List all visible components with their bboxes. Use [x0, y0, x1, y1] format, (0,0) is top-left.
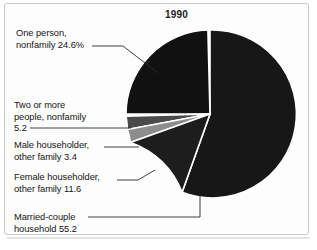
callout-two-or-more-nonfamily: Two or more people, nonfamily 5.2 [14, 100, 132, 135]
callout-one-person-nonfamily: One person, nonfamily 24.6% [16, 28, 126, 51]
callout-female-householder: Female householder, other family 11.6 [14, 172, 138, 195]
pie-slice-one-person-nonfamily[interactable] [126, 30, 210, 114]
callout-married-couple: Married-couple household 55.2 [14, 212, 132, 235]
callout-male-householder: Male householder, other family 3.4 [14, 140, 132, 163]
pie-chart-figure: 1990 One person, nonfamily 24.6% Two or … [0, 0, 317, 250]
